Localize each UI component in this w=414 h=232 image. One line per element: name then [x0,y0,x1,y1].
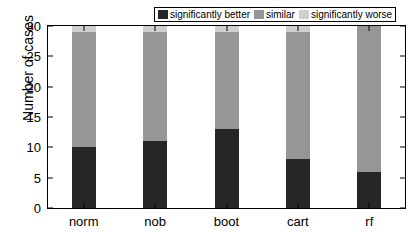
y-axis-tick-label: 0 [34,201,48,216]
x-axis-tick-mark-top [297,26,298,31]
y-axis-tick-mark-right [400,117,405,118]
plot-inner: 051015202530normnobbootcartrf [48,26,405,208]
legend-label: similar [266,9,295,20]
x-axis-tick-label: rf [365,208,373,229]
bar-cart[interactable] [286,26,310,208]
y-axis-tick-mark-right [400,147,405,148]
legend-entry[interactable]: similar [254,9,295,20]
y-axis-tick-mark-right [400,208,405,209]
y-axis-tick-mark-right [400,177,405,178]
x-axis-tick-mark-top [369,26,370,31]
bar-segment[interactable] [215,129,239,208]
x-axis-tick-label: norm [69,208,99,229]
bar-segment[interactable] [215,32,239,129]
bar-segment[interactable] [72,147,96,208]
x-axis-tick-mark [297,203,298,208]
bar-segment[interactable] [286,32,310,159]
bar-nob[interactable] [143,26,167,208]
y-axis-tick-label: 15 [27,110,48,125]
y-axis-tick-mark-right [400,26,405,27]
legend-entry[interactable]: significantly better [158,9,250,20]
x-axis-tick-mark-top [155,26,156,31]
bar-segment[interactable] [357,26,381,172]
bar-segment[interactable] [143,141,167,208]
x-axis-tick-mark [369,203,370,208]
bar-segment[interactable] [143,32,167,141]
y-axis-tick-label: 20 [27,79,48,94]
plot-area: 051015202530normnobbootcartrf [47,25,406,209]
y-axis-tick-mark [48,147,53,148]
x-axis-tick-mark [226,203,227,208]
y-axis-tick-mark [48,177,53,178]
bar-segment[interactable] [72,32,96,147]
y-axis-tick-mark [48,208,53,209]
x-axis-tick-label: cart [287,208,309,229]
chart-figure: Number of cases 051015202530normnobbootc… [0,0,414,232]
y-axis-tick-mark [48,26,53,27]
y-axis-tick-mark-right [400,86,405,87]
y-axis-tick-mark [48,56,53,57]
y-axis-tick-mark [48,117,53,118]
bar-boot[interactable] [215,26,239,208]
x-axis-tick-label: boot [214,208,239,229]
x-axis-tick-mark-top [83,26,84,31]
chart-legend: significantly bettersimilarsignificantly… [154,7,396,22]
legend-entry[interactable]: significantly worse [299,9,392,20]
y-axis-tick-label: 30 [27,19,48,34]
bar-norm[interactable] [72,26,96,208]
legend-swatch-icon [254,10,264,19]
bar-segment[interactable] [286,159,310,208]
x-axis-tick-mark [155,203,156,208]
x-axis-tick-mark [83,203,84,208]
legend-label: significantly worse [311,9,392,20]
y-axis-tick-label: 10 [27,140,48,155]
y-axis-tick-mark-right [400,56,405,57]
y-axis-tick-label: 25 [27,49,48,64]
legend-swatch-icon [158,10,168,19]
bar-rf[interactable] [357,26,381,208]
legend-swatch-icon [299,10,309,19]
y-axis-tick-label: 5 [34,170,48,185]
x-axis-tick-mark-top [226,26,227,31]
legend-label: significantly better [170,9,250,20]
y-axis-tick-mark [48,86,53,87]
x-axis-tick-label: nob [144,208,166,229]
